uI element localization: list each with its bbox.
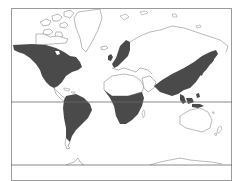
world-map <box>0 0 240 181</box>
